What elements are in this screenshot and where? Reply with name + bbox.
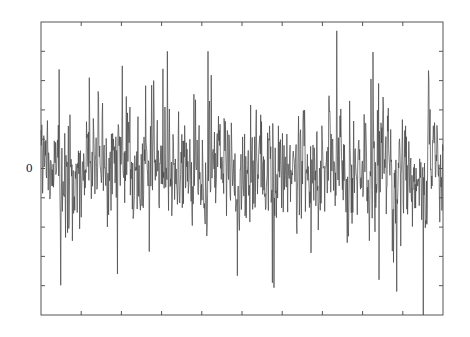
noise-line-chart [0,0,470,337]
signal-series-line [41,31,443,315]
plot-area [41,31,443,315]
y-tick-label-zero: 0 [26,160,33,176]
